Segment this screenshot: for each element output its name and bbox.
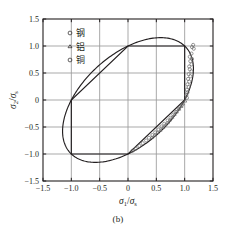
x-tick-label: −0.5 xyxy=(92,184,107,193)
yield-locus-chart: −1.5−1.0−0.500.51.01.5 1.51.00.50−0.5−1.… xyxy=(0,0,236,240)
x-tick-labels: −1.5−1.0−0.500.51.01.5 xyxy=(36,184,218,193)
y-tick-label: 1.0 xyxy=(29,42,39,51)
y-tick-label: 0 xyxy=(35,96,39,105)
y-tick-label: 0.5 xyxy=(29,69,39,78)
y-tick-labels: 1.51.00.50−0.5−1.0−1.5 xyxy=(24,15,39,186)
legend-label: 铜 xyxy=(76,54,85,65)
x-tick-label: 0.5 xyxy=(151,184,161,193)
x-tick-label: 1.0 xyxy=(180,184,190,193)
y-axis-label: σ2/σs xyxy=(8,91,19,109)
y-tick-label: −0.5 xyxy=(24,123,39,132)
y-tick-label: 1.5 xyxy=(29,15,39,24)
x-tick-label: −1.0 xyxy=(64,184,79,193)
legend-label: 钢 xyxy=(76,27,85,38)
x-tick-label: 1.5 xyxy=(208,184,218,193)
y-tick-label: −1.0 xyxy=(24,150,39,159)
figure-panel: −1.5−1.0−0.500.51.01.5 1.51.00.50−0.5−1.… xyxy=(0,0,236,240)
y-tick-label: −1.5 xyxy=(24,177,39,186)
legend-label: 铝 xyxy=(76,41,85,52)
svg-text:σ1/σs: σ1/σs xyxy=(119,196,137,207)
svg-text:σ2/σs: σ2/σs xyxy=(8,91,19,109)
x-tick-label: 0 xyxy=(126,184,130,193)
figure-caption: (b) xyxy=(0,214,236,224)
x-axis-label: σ1/σs xyxy=(119,196,137,207)
